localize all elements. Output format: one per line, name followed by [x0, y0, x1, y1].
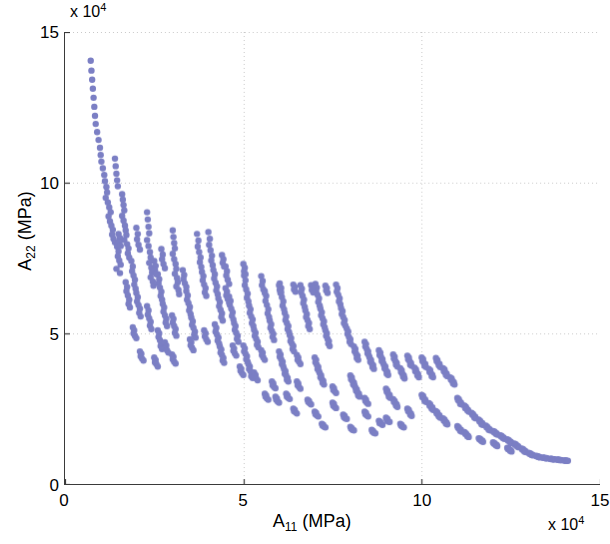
x-axis-title: A11 (MPa): [0, 512, 610, 530]
scatter-plot-figure: x 104 15 10 5 0 0 5 10 15 x 104 A11 (MPa…: [0, 0, 610, 544]
x-tick-label-10: 10: [402, 492, 442, 509]
x-tick-label-15: 15: [580, 492, 610, 509]
x-tick-label-5: 5: [223, 492, 263, 509]
x-tick-label-0: 0: [44, 492, 84, 509]
scatter-points-canvas: [65, 32, 600, 484]
y-axis-exponent-label: x 104: [70, 4, 106, 20]
y-tick-label-15: 15: [11, 24, 59, 41]
y-tick-label-0: 0: [11, 477, 59, 494]
y-axis-title: A22 (MPa): [16, 101, 34, 361]
plot-area: [64, 32, 600, 485]
